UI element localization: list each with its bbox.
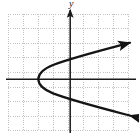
plot-canvas xyxy=(0,0,139,138)
parabola-figure: y · · · · xyxy=(0,0,139,138)
grid-lines xyxy=(8,14,129,131)
y-axis-label: y xyxy=(69,0,73,9)
page-artifact-smudge: · · · · xyxy=(22,130,38,136)
